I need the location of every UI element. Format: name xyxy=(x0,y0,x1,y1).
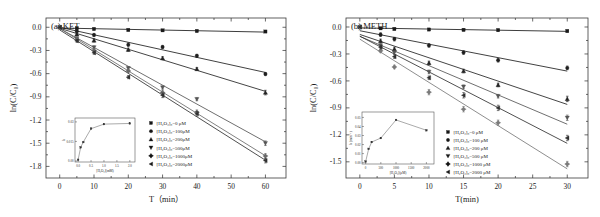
inset-data-line xyxy=(366,120,427,162)
data-point xyxy=(496,94,500,98)
x-tick-label: 15 xyxy=(460,182,468,191)
y-tick-label: -0.3 xyxy=(330,50,342,59)
x-tick-label: 10 xyxy=(425,182,433,191)
data-point xyxy=(195,54,199,58)
y-tick-label: -0.9 xyxy=(30,92,42,101)
data-point xyxy=(461,107,466,112)
y-tick-label: -1.5 xyxy=(30,139,42,148)
legend-label-2: [H₂O₂]₀=200 μM xyxy=(454,146,489,151)
data-point xyxy=(462,51,466,55)
inset-data-point xyxy=(368,148,370,150)
data-point xyxy=(263,141,267,145)
data-point xyxy=(127,43,131,47)
x-tick-label: 30 xyxy=(159,182,167,191)
inset-data-point xyxy=(380,137,382,139)
legend-label-1: [H₂O₂]₀=100μM xyxy=(157,129,191,134)
x-tick-label: 0 xyxy=(358,182,362,191)
series-points-0 xyxy=(358,25,569,32)
inset-x-tick-label: 1000 xyxy=(393,166,400,170)
data-point xyxy=(427,28,430,31)
data-point xyxy=(160,86,164,90)
legend-marker-1 xyxy=(149,130,152,133)
data-point xyxy=(195,97,199,101)
legend-marker-4 xyxy=(445,161,450,166)
data-point xyxy=(461,69,465,73)
data-point xyxy=(392,47,396,51)
inset-chart: 05001000150020000.000.010.020.030.040.05… xyxy=(349,112,435,175)
y-tick-label: -0.6 xyxy=(330,77,342,86)
inset-x-axis-title: [H₂O₂](mM) xyxy=(96,169,113,173)
inset-data-point xyxy=(129,123,131,125)
y-tick-label: -0.3 xyxy=(30,46,42,55)
legend-marker-5 xyxy=(446,170,450,174)
data-point xyxy=(393,37,397,41)
inset-y-tick-label: 0.05 xyxy=(355,116,361,120)
data-point xyxy=(426,89,431,94)
y-tick-label: 0.0 xyxy=(32,23,42,32)
inset-y-axis-title: k (min⁻¹) xyxy=(349,131,353,144)
data-point xyxy=(565,116,569,120)
y-tick-label: -1.2 xyxy=(330,130,342,139)
x-tick-label: 40 xyxy=(193,182,201,191)
inset-x-tick-label: 500 xyxy=(379,166,384,170)
data-point xyxy=(392,64,397,69)
y-tick-label: -1.2 xyxy=(30,116,42,125)
x-axis-title: T（min） xyxy=(149,195,183,204)
inset-y-axis-title: k xyxy=(62,139,66,141)
inset-x-tick-label: 0.5 xyxy=(89,164,93,168)
x-tick-label: 30 xyxy=(564,182,572,191)
inset-y-tick-label: 0.00 xyxy=(355,161,361,165)
panel-b-svg: 0510152025300.0-0.3-0.6-0.9-1.2-1.5T(min… xyxy=(300,0,600,217)
x-tick-label: 25 xyxy=(529,182,537,191)
data-point xyxy=(393,27,396,30)
x-tick-label: 5 xyxy=(393,182,397,191)
figure-root: 01020304050600.0-0.3-0.6-0.9-1.2-1.5-1.8… xyxy=(0,0,600,217)
legend-marker-5 xyxy=(149,162,153,166)
series-points-5 xyxy=(358,25,569,141)
data-point xyxy=(496,83,500,87)
legend-label-0: [H₂O₂]₀=0 μM xyxy=(157,121,187,126)
data-point xyxy=(92,27,95,30)
legend-label-5: [H₂O₂]₀=2000 μM xyxy=(454,170,492,175)
data-point xyxy=(565,97,569,101)
inset-data-point xyxy=(395,119,397,121)
data-point xyxy=(565,66,569,70)
inset-data-point xyxy=(77,159,79,161)
legend-marker-1 xyxy=(446,138,449,141)
x-tick-label: 0 xyxy=(58,182,62,191)
data-point xyxy=(161,29,164,32)
inset-x-tick-label: 1.5 xyxy=(115,164,119,168)
legend-marker-4 xyxy=(148,153,153,158)
legend-label-3: [H₂O₂]₀=500μM xyxy=(157,146,191,151)
series-points-1 xyxy=(358,25,569,69)
inset-x-tick-label: 1500 xyxy=(408,166,415,170)
x-tick-label: 50 xyxy=(227,182,235,191)
legend-label-0: [H₂O₂]₀=0 μM xyxy=(454,130,484,135)
data-point xyxy=(497,29,500,32)
data-point xyxy=(379,33,383,37)
inset-y-tick-label: 0.04 xyxy=(355,125,361,129)
inset-data-point xyxy=(426,129,428,131)
data-point xyxy=(264,30,267,33)
legend-marker-2 xyxy=(149,137,153,141)
inset-data-point xyxy=(80,146,82,148)
data-point xyxy=(496,58,500,62)
x-tick-label: 60 xyxy=(262,182,270,191)
legend-marker-0 xyxy=(150,122,153,125)
legend-marker-3 xyxy=(149,146,153,150)
panel-a-svg: 01020304050600.0-0.3-0.6-0.9-1.2-1.5-1.8… xyxy=(0,0,300,217)
inset-x-tick-label: 2000 xyxy=(423,166,430,170)
data-point xyxy=(161,45,165,49)
data-point xyxy=(195,29,198,32)
y-tick-label: -0.9 xyxy=(330,103,342,112)
legend-label-5: [H₂O₂]₀=2000μM xyxy=(157,162,193,167)
y-tick-label: -0.6 xyxy=(30,69,42,78)
legend-marker-0 xyxy=(447,131,450,134)
data-point xyxy=(427,70,431,74)
chart-panel-b: 0510152025300.0-0.3-0.6-0.9-1.2-1.5T(min… xyxy=(300,0,600,217)
series-points-2 xyxy=(58,25,268,95)
inset-y-tick-label: 0.03 xyxy=(68,120,74,124)
inset-frame xyxy=(75,118,135,162)
inset-chart: 0.00.51.01.52.00.000.0150.03[H₂O₂](mM)k xyxy=(62,118,136,173)
data-point xyxy=(427,61,431,65)
